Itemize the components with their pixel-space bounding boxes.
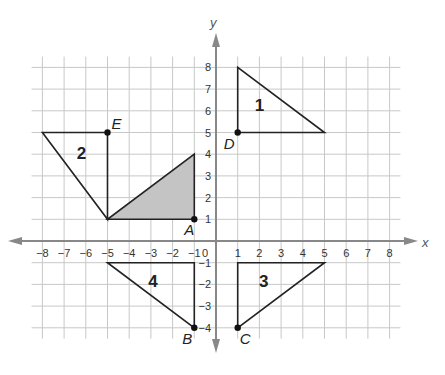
x-tick-label: 7 [365,247,371,259]
x-tick-label: −2 [166,247,179,259]
coordinate-plane: −8−7−6−5−4−3−2−101234567887654321−1−2−3−… [0,0,445,375]
x-tick-label: 3 [278,247,284,259]
y-tick-label: 2 [205,192,211,204]
point-e-dot [104,129,110,135]
point-d-dot [235,129,241,135]
figure-2-label: 2 [77,144,86,163]
point-e-label: E [112,115,123,132]
x-tick-label: −7 [58,247,71,259]
y-tick-label: 4 [205,148,211,160]
x-axis-left-arrow-icon [8,237,22,245]
x-axis-label: x [421,235,429,250]
points: ABCDE [104,115,250,347]
y-tick-label: 8 [205,61,211,73]
x-tick-label: 4 [300,247,306,259]
y-tick-label: 1 [205,213,211,225]
x-tick-label: −6 [80,247,93,259]
x-tick-label: 5 [321,247,327,259]
y-axis-label: y [209,15,218,30]
x-tick-label: −4 [123,247,136,259]
x-tick-label: −3 [145,247,158,259]
x-tick-label: 6 [343,247,349,259]
point-c-label: C [240,330,251,347]
y-tick-label: −1 [198,257,211,269]
x-tick-label: −8 [36,247,49,259]
y-tick-label: −3 [198,300,211,312]
figure-3-label: 3 [259,272,268,291]
point-b-label: B [182,330,192,347]
axes [8,33,418,353]
x-tick-label: 2 [256,247,262,259]
point-d-label: D [224,135,235,152]
x-tick-label: −5 [101,247,114,259]
figure-1-label: 1 [255,96,264,115]
x-axis-right-arrow-icon [404,237,418,245]
y-tick-label: −4 [198,322,211,334]
y-tick-label: 3 [205,170,211,182]
y-axis-up-arrow-icon [212,33,220,47]
figure-4-label: 4 [148,272,158,291]
y-tick-label: 5 [205,127,211,139]
point-a-label: A [183,221,194,238]
y-axis-down-arrow-icon [212,339,220,353]
y-tick-label: 7 [205,83,211,95]
y-tick-label: −2 [198,278,211,290]
x-tick-label: 1 [235,247,241,259]
x-tick-label: 8 [387,247,393,259]
y-tick-label: 6 [205,105,211,117]
